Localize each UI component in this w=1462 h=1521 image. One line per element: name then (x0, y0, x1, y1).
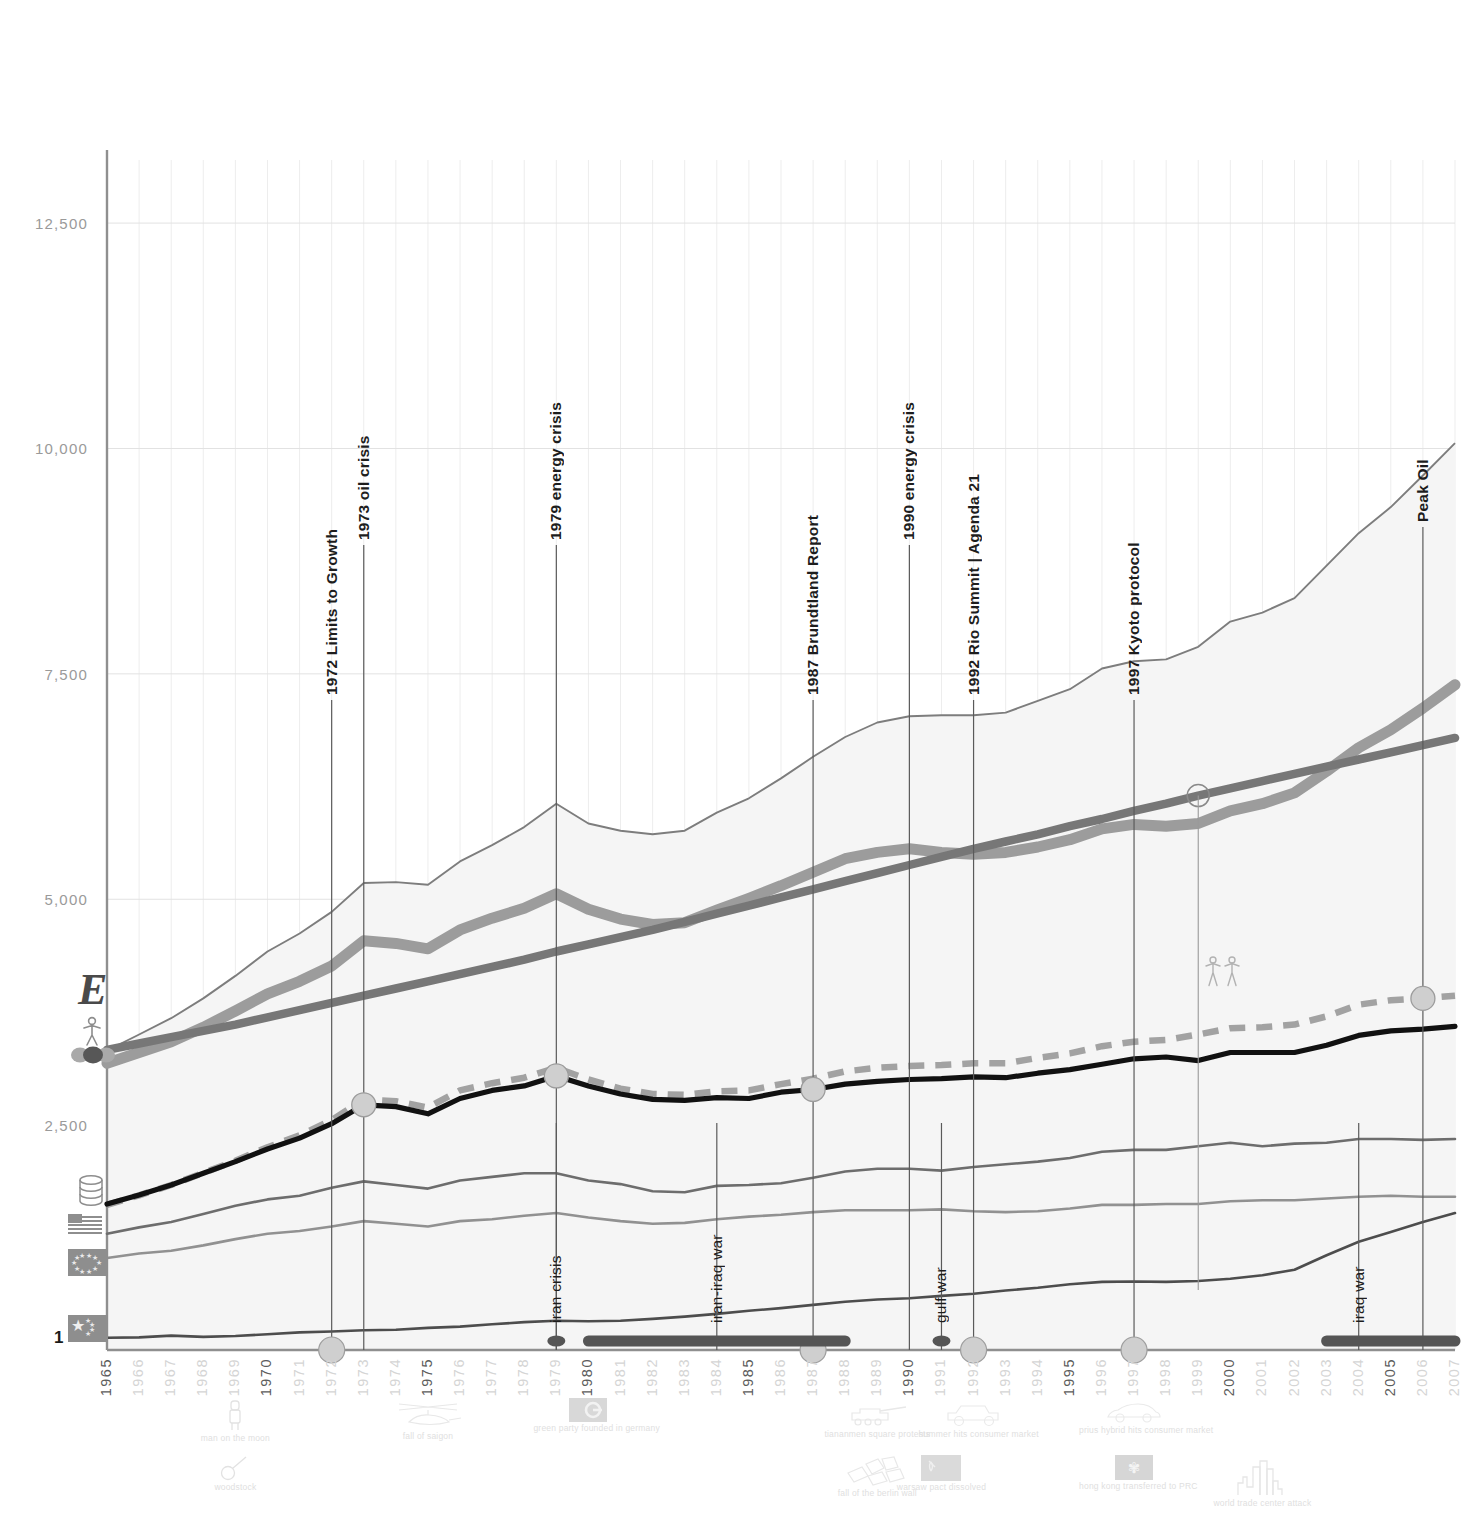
x-axis-year-label: 1981 (612, 1358, 628, 1396)
event-annotation-label: 1990 energy crisis (900, 220, 918, 540)
culture-event-icon: green party founded in germany (533, 1398, 643, 1433)
x-axis-year-label: 2003 (1318, 1358, 1334, 1396)
culture-event-icon: woodstock (180, 1455, 290, 1492)
data-point-marker (1411, 986, 1435, 1010)
x-axis-year-label: 1999 (1189, 1358, 1205, 1396)
culture-event-caption: woodstock (180, 1482, 290, 1492)
x-axis-year-label: 1971 (291, 1358, 307, 1396)
culture-event-caption: hong kong transferred to PRC (1079, 1481, 1189, 1491)
x-axis-year-label: 2007 (1446, 1358, 1462, 1396)
x-axis-year-label: 2004 (1350, 1358, 1366, 1396)
y-axis-tick-label: 10,000 (8, 440, 88, 457)
x-axis-year-label: 1975 (419, 1358, 435, 1396)
culture-event-caption: warsaw pact dissolved (886, 1482, 996, 1492)
y-axis-tick-label: 7,500 (8, 665, 88, 682)
x-axis-year-label: 1986 (772, 1358, 788, 1396)
x-axis-year-label: 1994 (1029, 1358, 1045, 1396)
x-axis-year-label: 1993 (997, 1358, 1013, 1396)
x-axis-year-label: 1980 (579, 1358, 595, 1396)
x-axis-year-label: 1979 (547, 1358, 563, 1396)
x-axis-year-label: 1998 (1157, 1358, 1173, 1396)
y-axis-tick-label: 2,500 (8, 1116, 88, 1133)
war-timeline-dot (932, 1336, 950, 1347)
x-axis-year-label: 2006 (1414, 1358, 1430, 1396)
y-axis-tick-label: 12,500 (8, 215, 88, 232)
x-axis-year-label: 1983 (676, 1358, 692, 1396)
x-axis-year-label: 2001 (1253, 1358, 1269, 1396)
culture-event-icon: fall of saigon (373, 1398, 483, 1441)
x-axis-year-label: 1987 (804, 1358, 820, 1396)
y-axis-base-label: 1 (54, 1328, 63, 1348)
event-annotation-label: 1992 Rio Summit | Agenda 21 (965, 375, 983, 695)
culture-event-caption: prius hybrid hits consumer market (1079, 1425, 1189, 1435)
co2-dots-icon (70, 1044, 116, 1070)
event-annotation-label: 1987 Brundtland Report (804, 375, 822, 695)
x-axis-year-label: 1970 (258, 1358, 274, 1396)
event-annotation-label: 1979 energy crisis (547, 220, 565, 540)
war-annotation-label: iran-iraq war (708, 1118, 726, 1323)
event-annotation-label: 1997 Kyoto protocol (1125, 375, 1143, 695)
oil-barrels-icon (76, 1174, 106, 1216)
culture-event-caption: green party founded in germany (533, 1423, 643, 1433)
x-axis-year-label: 1969 (226, 1358, 242, 1396)
culture-event-caption: tiananmen square protests (822, 1429, 932, 1439)
war-timeline-dot (547, 1336, 565, 1347)
x-axis-year-label: 1977 (483, 1358, 499, 1396)
event-annotation-label: Peak Oil (1414, 202, 1432, 522)
x-axis-year-label: 1995 (1061, 1358, 1077, 1396)
china-flag-icon: ★ ★ ★ ★ ★ (68, 1315, 108, 1342)
data-point-marker (544, 1064, 568, 1088)
energy-E-icon: E (78, 968, 107, 1012)
culture-event-caption: hummer hits consumer market (919, 1429, 1029, 1439)
x-axis-year-label: 1988 (836, 1358, 852, 1396)
x-axis-year-label: 1976 (451, 1358, 467, 1396)
x-axis-year-label: 1973 (355, 1358, 371, 1396)
culture-event-icon: tiananmen square protests (822, 1398, 932, 1439)
x-axis-year-label: 1984 (708, 1358, 724, 1396)
x-axis-year-label: 1978 (515, 1358, 531, 1396)
culture-event-icon: world trade center attack (1207, 1455, 1317, 1508)
x-axis-year-label: 1992 (965, 1358, 981, 1396)
x-axis-year-label: 1990 (900, 1358, 916, 1396)
svg-text:✾: ✾ (1128, 1459, 1141, 1476)
culture-event-caption: man on the moon (180, 1433, 290, 1443)
x-axis-year-label: 1985 (740, 1358, 756, 1396)
x-axis-year-label: 1967 (162, 1358, 178, 1396)
x-axis-year-label: 2002 (1286, 1358, 1302, 1396)
x-axis-year-label: 1996 (1093, 1358, 1109, 1396)
event-annotation-label: 1972 Limits to Growth (323, 375, 341, 695)
x-axis-year-label: 1968 (194, 1358, 210, 1396)
y-axis-tick-label: 5,000 (8, 891, 88, 908)
x-axis-year-label: 1989 (868, 1358, 884, 1396)
x-axis-year-label: 1982 (644, 1358, 660, 1396)
event-annotation-label: 1973 oil crisis (355, 220, 373, 540)
x-axis-year-label: 1966 (130, 1358, 146, 1396)
x-axis-year-label: 1965 (98, 1358, 114, 1396)
two-people-icon (1203, 955, 1243, 991)
culture-event-caption: fall of saigon (373, 1431, 483, 1441)
culture-event-caption: world trade center attack (1207, 1498, 1317, 1508)
x-axis-year-label: 1997 (1125, 1358, 1141, 1396)
x-axis-year-label: 1974 (387, 1358, 403, 1396)
war-annotation-label: gulf war (932, 1118, 950, 1323)
us-flag-icon (68, 1214, 102, 1236)
data-point-marker (352, 1093, 376, 1117)
culture-event-icon: warsaw pact dissolved (886, 1455, 996, 1492)
x-axis-year-label: 1972 (323, 1358, 339, 1396)
culture-event-icon: prius hybrid hits consumer market (1079, 1398, 1189, 1435)
war-annotation-label: iran crisis (547, 1118, 565, 1323)
culture-event-icon: ✾hong kong transferred to PRC (1079, 1455, 1189, 1491)
x-axis-year-label: 2005 (1382, 1358, 1398, 1396)
war-annotation-label: iraq war (1350, 1118, 1368, 1323)
x-axis-year-label: 1991 (932, 1358, 948, 1396)
culture-event-icon: hummer hits consumer market (919, 1398, 1029, 1439)
x-axis-year-label: 2000 (1221, 1358, 1237, 1396)
eu-flag-icon: ★ ★ ★ ★ ★ ★ ★ ★ ★ ★ (68, 1249, 108, 1276)
culture-event-icon: man on the moon (180, 1398, 290, 1443)
data-point-marker (801, 1077, 825, 1101)
